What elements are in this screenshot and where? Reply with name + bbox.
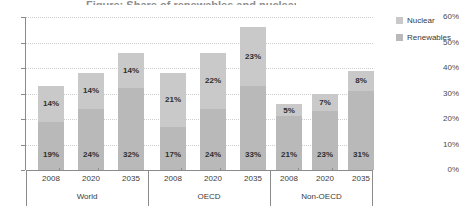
- category-year-label: 2020: [71, 170, 111, 188]
- category-group-label: Non-OECD: [270, 188, 373, 206]
- chart-legend: NuclearRenewables: [396, 14, 459, 48]
- chart-title-clipped: Figure: Share of renewables and nuclear …: [86, 0, 296, 5]
- group-separator-line: [148, 170, 149, 206]
- bar-segment-label: 5%: [276, 106, 302, 115]
- bar-segment-nuclear: 22%: [200, 53, 226, 109]
- axis-edge-line: [26, 170, 27, 206]
- y-axis-tick-label: 40%: [438, 64, 459, 72]
- axis-minor-tick: [98, 168, 99, 171]
- category-year-label: 2008: [269, 170, 309, 188]
- bar-segment-label: 19%: [38, 150, 64, 159]
- category-axis: 200820202035200820202035200820202035 Wor…: [26, 170, 373, 206]
- category-year-label: 2020: [305, 170, 345, 188]
- axis-minor-tick: [220, 168, 221, 171]
- y-axis-tick-label: 30%: [438, 90, 459, 98]
- bar-segment-nuclear: 14%: [78, 73, 104, 109]
- bar-segment-label: 17%: [160, 150, 186, 159]
- category-year-label: 2008: [31, 170, 71, 188]
- bar: 23%33%: [240, 27, 266, 170]
- bar-segment-nuclear: 14%: [38, 86, 64, 122]
- bar: 8%31%: [348, 71, 374, 170]
- bar-segment-label: 33%: [240, 150, 266, 159]
- bar-segment-renewables: 21%: [276, 116, 302, 170]
- y-axis-tick-mark: [21, 94, 25, 95]
- axis-minor-tick: [181, 168, 182, 171]
- bar: 14%32%: [118, 53, 144, 170]
- y-axis-tick-label: 0%: [438, 166, 459, 174]
- bar-segment-nuclear: 8%: [348, 71, 374, 91]
- category-year-label: 2035: [233, 170, 273, 188]
- bar: 21%17%: [160, 73, 186, 170]
- bar-segment-label: 8%: [348, 76, 374, 85]
- bar-segment-label: 21%: [276, 150, 302, 159]
- y-axis-tick-mark: [21, 68, 25, 69]
- y-axis-tick-label: 10%: [438, 141, 459, 149]
- gridline: [26, 17, 373, 18]
- bar-segment-renewables: 24%: [200, 109, 226, 170]
- bar-segment-label: 31%: [348, 150, 374, 159]
- bar-segment-renewables: 24%: [78, 109, 104, 170]
- bar-segment-label: 23%: [312, 150, 338, 159]
- y-axis-tick-mark: [21, 43, 25, 44]
- bar-segment-label: 7%: [312, 98, 338, 107]
- bar-segment-nuclear: 23%: [240, 27, 266, 86]
- y-axis-tick-mark: [21, 145, 25, 146]
- bar-segment-nuclear: 7%: [312, 94, 338, 112]
- bar: 22%24%: [200, 53, 226, 170]
- bar: 14%24%: [78, 73, 104, 170]
- bar-segment-nuclear: 5%: [276, 104, 302, 117]
- bar-segment-renewables: 19%: [38, 122, 64, 170]
- y-axis-tick-mark: [21, 170, 25, 171]
- legend-label: Nuclear: [407, 14, 435, 27]
- legend-label: Renewables: [407, 31, 451, 44]
- bar-segment-label: 32%: [118, 150, 144, 159]
- bar-segment-label: 24%: [78, 150, 104, 159]
- bar-segment-nuclear: 14%: [118, 53, 144, 89]
- category-axis-years: 200820202035200820202035200820202035: [26, 170, 373, 188]
- category-group-label: World: [26, 188, 148, 206]
- bar-segment-label: 14%: [38, 99, 64, 108]
- axis-minor-tick: [59, 168, 60, 171]
- legend-swatch-icon: [396, 17, 403, 24]
- bar: 14%19%: [38, 86, 64, 170]
- gridline: [26, 43, 373, 44]
- bar-segment-renewables: 32%: [118, 88, 144, 170]
- bar-segment-label: 14%: [118, 66, 144, 75]
- category-year-label: 2008: [153, 170, 193, 188]
- group-separator-line: [270, 170, 271, 206]
- bar-segment-nuclear: 21%: [160, 73, 186, 127]
- category-axis-groups: WorldOECDNon-OECD: [26, 188, 373, 206]
- bar: 7%23%: [312, 94, 338, 170]
- axis-minor-tick: [332, 168, 333, 171]
- bar: 5%21%: [276, 104, 302, 170]
- legend-item[interactable]: Nuclear: [396, 14, 459, 31]
- bar-segment-label: 21%: [160, 95, 186, 104]
- legend-swatch-icon: [396, 34, 403, 41]
- y-axis-tick-mark: [21, 119, 25, 120]
- bar-segment-renewables: 17%: [160, 127, 186, 170]
- bar-segment-label: 23%: [240, 52, 266, 61]
- y-axis-tick-mark: [21, 17, 25, 18]
- category-year-label: 2035: [111, 170, 151, 188]
- category-group-label: OECD: [148, 188, 270, 206]
- stacked-bar-chart: Figure: Share of renewables and nuclear …: [0, 0, 459, 209]
- bar-segment-label: 22%: [200, 76, 226, 85]
- category-year-label: 2020: [193, 170, 233, 188]
- category-year-label: 2035: [341, 170, 381, 188]
- legend-item[interactable]: Renewables: [396, 31, 459, 48]
- plot-area: 14%19%14%24%14%32%21%17%22%24%23%33%5%21…: [26, 17, 373, 170]
- bar-segment-renewables: 33%: [240, 86, 266, 170]
- bar-segment-label: 14%: [78, 86, 104, 95]
- axis-edge-line: [372, 170, 373, 206]
- bar-segment-renewables: 23%: [312, 111, 338, 170]
- bar-segment-label: 24%: [200, 150, 226, 159]
- y-axis-tick-label: 20%: [438, 115, 459, 123]
- bar-segment-renewables: 31%: [348, 91, 374, 170]
- axis-minor-tick: [298, 168, 299, 171]
